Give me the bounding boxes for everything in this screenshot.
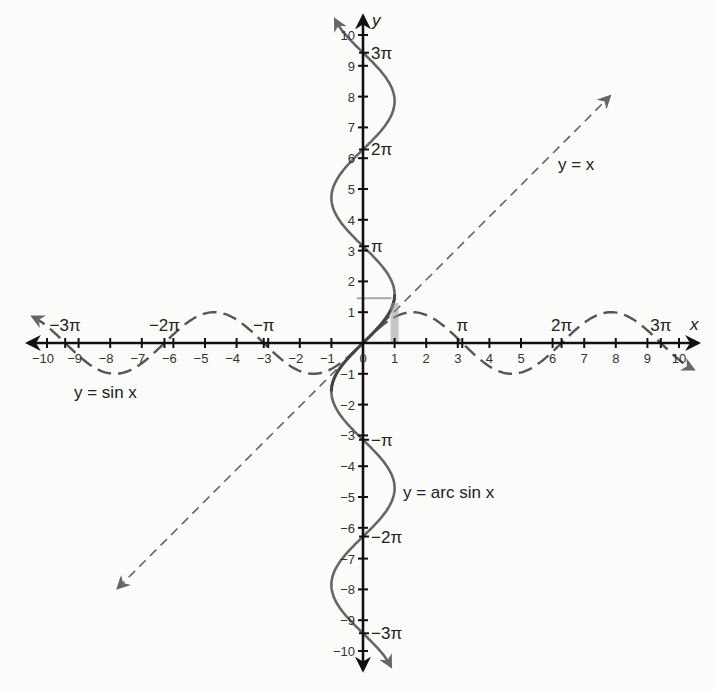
y-tick-label: −8 <box>340 582 355 597</box>
y-pi-label: 2π <box>371 140 392 159</box>
x-pi-label: −π <box>253 316 275 335</box>
y-tick-label: 5 <box>348 182 355 197</box>
identity-line-label: y = x <box>558 155 595 174</box>
y-pi-label: 3π <box>371 44 392 63</box>
y-tick-label: −10 <box>333 644 355 659</box>
y-tick-label: −7 <box>340 552 355 567</box>
y-pi-label: π <box>371 237 383 256</box>
y-tick-label: −4 <box>340 459 355 474</box>
x-tick-label: −4 <box>225 351 240 366</box>
x-axis-label: x <box>689 315 699 334</box>
x-tick-label: 6 <box>549 351 556 366</box>
chart-container: −10−9−8−7−6−5−4−3−2−1012345678910−10−9−8… <box>0 0 715 691</box>
x-tick-label: −9 <box>67 351 82 366</box>
x-tick-label: 4 <box>486 351 493 366</box>
y-tick-label: 3 <box>348 244 355 259</box>
x-tick-label: −5 <box>194 351 209 366</box>
x-pi-label: −2π <box>149 316 180 335</box>
x-tick-label: 7 <box>581 351 588 366</box>
x-tick-label: 3 <box>454 351 461 366</box>
y-tick-label: −2 <box>340 398 355 413</box>
y-tick-label: 2 <box>348 274 355 289</box>
highlight-band <box>391 303 399 343</box>
x-pi-label: 3π <box>650 316 671 335</box>
x-tick-label: 2 <box>423 351 430 366</box>
y-tick-label: −1 <box>340 367 355 382</box>
x-tick-label: −2 <box>288 351 303 366</box>
y-tick-label: 1 <box>348 305 355 320</box>
y-tick-label: 4 <box>348 213 355 228</box>
x-tick-label: −3 <box>257 351 272 366</box>
y-pi-label: −π <box>371 431 393 450</box>
x-tick-label: 1 <box>391 351 398 366</box>
y-axis-label: y <box>371 11 382 30</box>
x-tick-label: −6 <box>162 351 177 366</box>
y-tick-label: 9 <box>348 59 355 74</box>
x-tick-label: 8 <box>612 351 619 366</box>
x-tick-label: 5 <box>517 351 524 366</box>
x-tick-label: 10 <box>672 351 686 366</box>
x-pi-label: π <box>456 316 468 335</box>
y-tick-label: −5 <box>340 490 355 505</box>
y-tick-label: 8 <box>348 90 355 105</box>
y-pi-label: −3π <box>371 624 402 643</box>
axes-layer <box>28 17 698 670</box>
x-pi-label: 2π <box>551 316 572 335</box>
x-tick-label: 9 <box>644 351 651 366</box>
y-tick-label: −6 <box>340 521 355 536</box>
y-tick-label: 7 <box>348 120 355 135</box>
y-tick-label: 10 <box>341 28 355 43</box>
y-tick-label: 6 <box>348 151 355 166</box>
arcsin-curve-label: y = arc sin x <box>403 483 495 502</box>
x-pi-label: −3π <box>50 316 81 335</box>
x-tick-label: −10 <box>32 351 54 366</box>
y-tick-label: −3 <box>340 428 355 443</box>
x-tick-label: −1 <box>320 351 335 366</box>
sin-curve-label: y = sin x <box>74 383 137 402</box>
y-pi-label: −2π <box>371 528 402 547</box>
function-graph: −10−9−8−7−6−5−4−3−2−1012345678910−10−9−8… <box>0 0 715 691</box>
x-tick-label: −8 <box>99 351 114 366</box>
x-tick-label: −7 <box>130 351 145 366</box>
x-tick-label: 0 <box>359 351 366 366</box>
y-tick-label: −9 <box>340 613 355 628</box>
